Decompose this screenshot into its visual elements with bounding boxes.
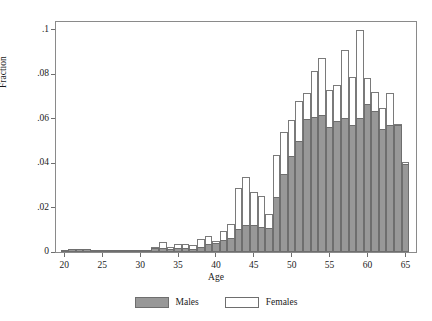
histogram-bar-males-age-22 xyxy=(76,249,84,252)
x-tick-label: 50 xyxy=(281,259,303,272)
legend-entry-males: Males xyxy=(135,296,199,308)
filled-gray-swatch-icon xyxy=(135,297,169,308)
x-tick-label: 65 xyxy=(394,259,416,272)
x-tick-label: 45 xyxy=(243,259,265,272)
x-tick-mark xyxy=(253,253,254,257)
histogram-bar-males-age-23 xyxy=(83,249,91,252)
x-tick-mark xyxy=(178,253,179,257)
plot-frame xyxy=(55,21,417,253)
x-tick-label: 40 xyxy=(205,259,227,272)
legend-label-females: Females xyxy=(266,296,298,308)
histogram-bar-males-age-35 xyxy=(174,248,182,252)
histogram-bar-males-age-20 xyxy=(61,250,69,252)
histogram-bar-males-age-41 xyxy=(220,240,228,252)
histogram-bar-males-age-28 xyxy=(121,250,129,252)
histogram-bar-males-age-46 xyxy=(258,227,266,252)
histogram-bar-males-age-56 xyxy=(333,121,341,252)
x-tick-label: 20 xyxy=(53,259,75,272)
histogram-bar-males-age-48 xyxy=(273,197,281,252)
x-tick-mark xyxy=(367,253,368,257)
histogram-bar-males-age-32 xyxy=(151,248,159,252)
histogram-bar-males-age-44 xyxy=(242,225,250,252)
histogram-bar-males-age-21 xyxy=(68,249,76,252)
histogram-bar-males-age-58 xyxy=(349,125,357,252)
histogram-bar-males-age-59 xyxy=(356,118,364,252)
y-axis-title: Fraction xyxy=(0,0,8,88)
x-tick-mark xyxy=(291,253,292,257)
histogram-bar-males-age-60 xyxy=(364,104,372,252)
histogram-bar-males-age-37 xyxy=(189,249,197,252)
histogram-bar-males-age-57 xyxy=(341,118,349,252)
chart-container: Fraction 0.02.04.06.08.1 202530354045505… xyxy=(0,0,432,321)
x-tick-label: 30 xyxy=(129,259,151,272)
histogram-bar-males-age-64 xyxy=(394,125,402,252)
histogram-bar-males-age-47 xyxy=(265,228,273,252)
histogram-bar-males-age-29 xyxy=(129,250,137,252)
x-tick-mark xyxy=(215,253,216,257)
histogram-bar-males-age-65 xyxy=(402,164,410,252)
histogram-bar-males-age-61 xyxy=(371,111,379,252)
histogram-bar-males-age-55 xyxy=(326,127,334,252)
x-tick-mark xyxy=(64,253,65,257)
histogram-bar-males-age-43 xyxy=(235,229,243,252)
histogram-bar-males-age-42 xyxy=(227,238,235,252)
histogram-bar-males-age-33 xyxy=(159,248,167,252)
histogram-bar-males-age-52 xyxy=(303,119,311,252)
histogram-bar-males-age-62 xyxy=(379,129,387,252)
histogram-bar-males-age-34 xyxy=(167,249,175,252)
histogram-bar-males-age-40 xyxy=(212,243,220,252)
x-tick-mark xyxy=(405,253,406,257)
histogram-bar-males-age-51 xyxy=(295,141,303,252)
histogram-bar-males-age-36 xyxy=(182,248,190,252)
x-tick-label: 60 xyxy=(356,259,378,272)
x-tick-label: 25 xyxy=(91,259,113,272)
chart-legend: Males Females xyxy=(0,292,432,312)
histogram-bar-males-age-39 xyxy=(205,244,213,252)
histogram-bar-males-age-27 xyxy=(114,250,122,252)
x-tick-mark xyxy=(329,253,330,257)
y-tick-label: .06 xyxy=(37,112,49,125)
plot-area xyxy=(56,22,416,252)
histogram-bar-males-age-50 xyxy=(288,156,296,252)
y-tick-label: .08 xyxy=(37,67,49,80)
histogram-bar-males-age-31 xyxy=(144,250,152,252)
x-tick-mark xyxy=(102,253,103,257)
y-axis: Fraction 0.02.04.06.08.1 xyxy=(0,0,55,254)
histogram-bar-males-age-54 xyxy=(318,115,326,252)
y-tick-label: .1 xyxy=(42,23,49,36)
legend-label-males: Males xyxy=(176,296,199,308)
histogram-bar-males-age-30 xyxy=(136,250,144,252)
histogram-bar-males-age-25 xyxy=(98,250,106,252)
y-tick-label: .04 xyxy=(37,156,49,169)
x-tick-label: 35 xyxy=(167,259,189,272)
histogram-bar-males-age-24 xyxy=(91,250,99,252)
histogram-bar-males-age-63 xyxy=(386,125,394,252)
x-tick-label: 55 xyxy=(319,259,341,272)
x-axis-title: Age xyxy=(0,272,432,282)
histogram-bar-males-age-45 xyxy=(250,225,258,252)
histogram-bar-males-age-53 xyxy=(311,117,319,252)
histogram-bar-males-age-26 xyxy=(106,250,114,252)
histogram-bar-males-age-49 xyxy=(280,174,288,252)
histogram-bar-males-age-38 xyxy=(197,247,205,252)
legend-entry-females: Females xyxy=(225,296,298,308)
x-tick-mark xyxy=(140,253,141,257)
y-tick-label: .02 xyxy=(37,201,49,214)
outlined-white-swatch-icon xyxy=(225,297,259,308)
